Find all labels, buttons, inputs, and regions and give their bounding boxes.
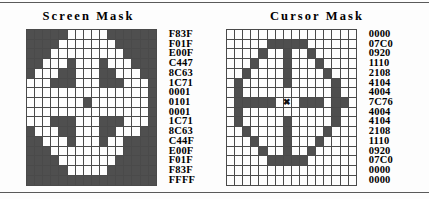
mask-cell [284,40,292,50]
mask-cell [59,176,67,186]
mask-cell [251,79,259,89]
mask-cell [84,49,92,59]
mask-cell [59,137,67,147]
mask-cell [92,88,100,98]
mask-cell [227,117,235,127]
screen-mask-title: Screen Mask [0,9,196,24]
mask-cell [124,59,132,69]
mask-cell [308,59,316,69]
mask-cell [84,137,92,147]
mask-cell [332,156,340,166]
mask-cell [227,98,235,108]
mask-cell [300,59,308,69]
mask-cell [235,108,243,118]
mask-cell [341,117,349,127]
mask-cell [227,69,235,79]
mask-cell [349,147,357,157]
mask-cell [27,156,35,166]
mask-cell [68,156,76,166]
mask-cell [292,88,300,98]
mask-cell [349,166,357,176]
screen-mask-hex-list: F83FF01FE00FC4478C631C710001010100011C71… [169,29,195,185]
mask-cell [268,49,276,59]
mask-cell [59,156,67,166]
mask-cell [76,127,84,137]
mask-cell [308,137,316,147]
mask-cell [227,59,235,69]
mask-cell [292,69,300,79]
mask-cell [92,30,100,40]
mask-cell [332,59,340,69]
mask-cell [141,127,149,137]
mask-cell [35,79,43,89]
mask-cell [284,166,292,176]
mask-cell [149,156,157,166]
mask-cell [284,108,292,118]
mask-cell [84,69,92,79]
bottom-divider [0,192,429,193]
mask-cell [27,137,35,147]
mask-cell [251,59,259,69]
mask-cell [27,127,35,137]
mask-cell [292,147,300,157]
mask-cell [84,88,92,98]
mask-cell [259,147,267,157]
mask-cell [349,176,357,186]
mask-cell [276,127,284,137]
mask-cell [43,117,51,127]
mask-cell [76,117,84,127]
mask-cell [268,30,276,40]
mask-cell [300,40,308,50]
mask-cell [284,156,292,166]
mask-cell [100,117,108,127]
mask-cell [259,40,267,50]
mask-cell [116,69,124,79]
mask-cell [324,30,332,40]
mask-cell [292,79,300,89]
mask-cell [259,156,267,166]
mask-cell [141,59,149,69]
mask-cell [35,98,43,108]
mask-cell [316,176,324,186]
mask-cell [268,137,276,147]
mask-cell [132,147,140,157]
mask-cell [316,166,324,176]
mask-cell [92,69,100,79]
mask-cell [43,156,51,166]
mask-cell [59,40,67,50]
mask-cell [332,117,340,127]
mask-cell [149,59,157,69]
mask-cell [92,79,100,89]
mask-cell [324,108,332,118]
mask-cell [243,117,251,127]
mask-cell [76,108,84,118]
mask-cell [332,88,340,98]
mask-cell [116,108,124,118]
mask-cell [116,40,124,50]
mask-cell [76,88,84,98]
mask-cell [308,176,316,186]
mask-cell [268,176,276,186]
mask-cell [141,108,149,118]
mask-cell [132,166,140,176]
mask-cell [68,59,76,69]
mask-cell [76,59,84,69]
mask-cell [59,127,67,137]
mask-cell [268,59,276,69]
mask-cell [341,108,349,118]
mask-cell [292,30,300,40]
mask-cell [132,59,140,69]
mask-cell [341,30,349,40]
mask-cell [51,69,59,79]
mask-cell [68,147,76,157]
mask-cell [27,176,35,186]
mask-cell [251,98,259,108]
mask-cell [27,59,35,69]
mask-cell [251,176,259,186]
mask-cell [349,49,357,59]
mask-cell [51,30,59,40]
mask-cell [259,166,267,176]
mask-cell [349,30,357,40]
mask-cell [92,137,100,147]
mask-cell [308,166,316,176]
